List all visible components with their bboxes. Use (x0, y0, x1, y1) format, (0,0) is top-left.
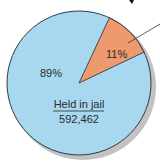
title-fragment (129, 0, 134, 4)
pie-chart: 11% 89% Held in jail 592,462 (0, 0, 160, 168)
major-count-label: 592,462 (59, 113, 99, 125)
minor-percent-label: 11% (106, 48, 127, 60)
leader-line (128, 24, 160, 43)
major-percent-label: 89% (40, 67, 62, 79)
major-name-label: Held in jail (54, 98, 105, 110)
